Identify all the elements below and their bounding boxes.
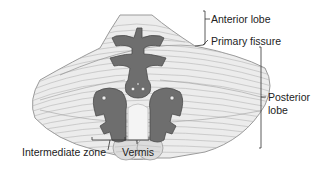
posterior-lobe-label-line1: Posterior [268,91,310,103]
posterior-lobe-label-line2: lobe [268,104,288,116]
vermis-column [128,104,148,140]
primary-fissure-label: Primary fissure [211,35,281,47]
anterior-lobe-label: Anterior lobe [211,13,271,25]
vermis-label: Vermis [122,146,154,158]
intermediate-zone-label: Intermediate zone [22,146,106,158]
